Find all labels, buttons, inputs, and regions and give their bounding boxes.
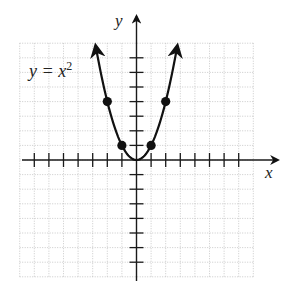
x-axis-label: x bbox=[264, 163, 273, 182]
equation-text: y = x bbox=[27, 61, 66, 81]
data-point bbox=[161, 97, 170, 106]
data-point bbox=[103, 97, 112, 106]
data-point bbox=[117, 141, 126, 150]
equation-label: y = x2 bbox=[27, 59, 72, 81]
data-point bbox=[147, 141, 156, 150]
equation-exponent: 2 bbox=[66, 59, 72, 73]
y-axis-label: y bbox=[113, 11, 123, 30]
parabola-graph: y x y = x2 bbox=[0, 0, 282, 292]
